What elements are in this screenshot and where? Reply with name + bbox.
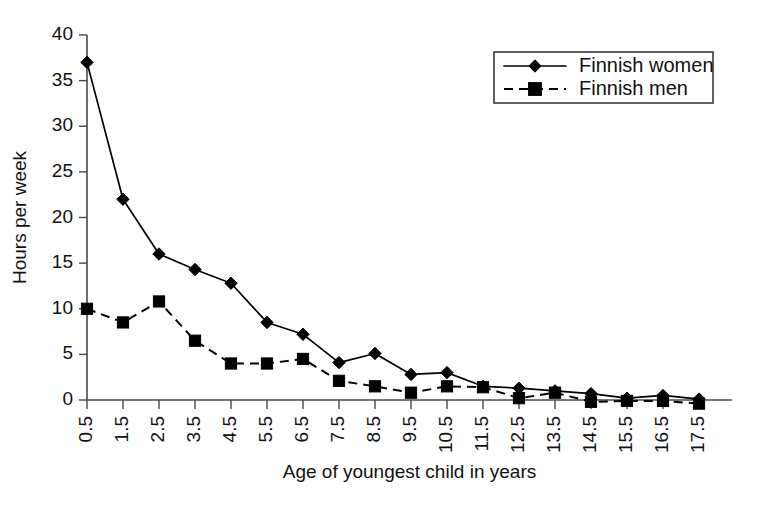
chart-container: 0510152025303540 0.51.52.53.54.55.56.57.… [0, 0, 757, 511]
data-point [189, 335, 200, 346]
x-tick-label: 6.5 [291, 416, 312, 442]
y-tick-label: 10 [52, 297, 73, 318]
x-tick-label: 7.5 [327, 416, 348, 442]
y-axis-title: Hours per week [9, 150, 30, 284]
x-tick-label: 14.5 [579, 416, 600, 453]
x-tick-label: 2.5 [147, 416, 168, 442]
x-tick-label: 15.5 [615, 416, 636, 453]
y-tick-label: 40 [52, 23, 73, 44]
data-point [189, 263, 201, 275]
data-point [117, 193, 129, 205]
data-point [333, 375, 344, 386]
series-line-2 [87, 301, 699, 403]
data-point [477, 382, 488, 393]
x-tick-label: 3.5 [183, 416, 204, 442]
legend-label: Finnish men [579, 77, 688, 99]
x-tick-label: 9.5 [399, 416, 420, 442]
data-point [441, 381, 452, 392]
data-point [81, 56, 93, 68]
y-axis-ticks: 0510152025303540 [52, 23, 87, 409]
data-point [621, 395, 632, 406]
y-tick-label: 20 [52, 206, 73, 227]
series-layer [81, 56, 705, 409]
chart-legend: Finnish womenFinnish men [494, 52, 714, 103]
x-tick-label: 5.5 [255, 416, 276, 442]
data-point [657, 395, 668, 406]
data-point [405, 387, 416, 398]
x-tick-label: 1.5 [111, 416, 132, 442]
data-point [117, 317, 128, 328]
data-point [441, 366, 453, 378]
x-tick-label: 0.5 [75, 416, 96, 442]
x-tick-label: 10.5 [435, 416, 456, 453]
data-point [585, 396, 596, 407]
x-axis-ticks: 0.51.52.53.54.55.56.57.58.59.510.511.512… [75, 400, 708, 453]
data-point [405, 368, 417, 380]
x-tick-label: 11.5 [471, 416, 492, 452]
data-point [369, 381, 380, 392]
y-tick-label: 15 [52, 251, 73, 272]
x-tick-label: 16.5 [651, 416, 672, 453]
y-tick-label: 0 [62, 388, 73, 409]
data-point [369, 347, 381, 359]
series-line-1 [87, 62, 699, 399]
data-point [693, 398, 704, 409]
data-point [513, 393, 524, 404]
y-tick-label: 30 [52, 114, 73, 135]
x-tick-label: 4.5 [219, 416, 240, 442]
x-tick-label: 13.5 [543, 416, 564, 453]
y-tick-label: 35 [52, 69, 73, 90]
x-tick-label: 12.5 [507, 416, 528, 453]
data-point [153, 248, 165, 260]
page-caption-remnant [14, 487, 434, 509]
y-tick-label: 25 [52, 160, 73, 181]
data-point [153, 296, 164, 307]
data-point [549, 387, 560, 398]
legend-marker-square [529, 83, 542, 96]
x-tick-label: 17.5 [687, 416, 708, 453]
data-point [261, 358, 272, 369]
data-point [225, 358, 236, 369]
line-chart: 0510152025303540 0.51.52.53.54.55.56.57.… [0, 0, 757, 511]
data-point [297, 353, 308, 364]
y-tick-label: 5 [62, 342, 73, 363]
x-axis-title: Age of youngest child in years [283, 461, 537, 482]
legend-label: Finnish women [579, 54, 714, 76]
data-point [81, 303, 92, 314]
x-tick-label: 8.5 [363, 416, 384, 442]
